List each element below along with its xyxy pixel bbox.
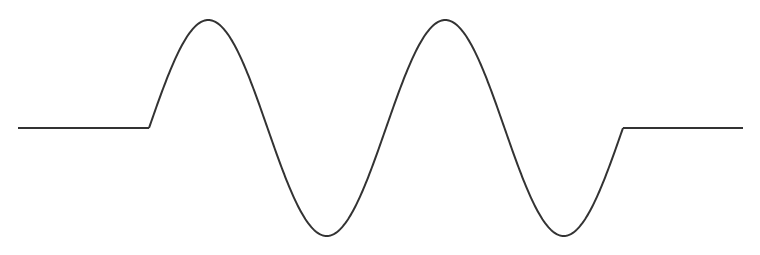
sine-wave-segment [149,20,623,236]
sine-burst-diagram [0,0,760,255]
